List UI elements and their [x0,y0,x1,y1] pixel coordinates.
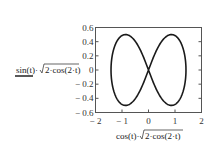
svg-text:0.4: 0.4 [82,37,94,47]
svg-text:− 1: − 1 [116,116,128,126]
lemniscate-curve [111,35,186,106]
y-axis-ticks: 0.60.40.20− 0.2− 0.4− 0.6 [75,23,202,118]
svg-text:2: 2 [199,116,204,126]
svg-text:− 2: − 2 [90,116,102,126]
svg-text:1: 1 [173,116,178,126]
svg-text:0: 0 [89,65,94,75]
svg-text:2·cos(2·t): 2·cos(2·t) [145,131,181,141]
y-axis-label: sin(t)· 2·cos(2·t) [15,64,81,76]
svg-text:− 0.2: − 0.2 [75,79,94,89]
svg-text:0.2: 0.2 [82,51,93,61]
lemniscate-chart: 0.60.40.20− 0.2− 0.4− 0.6 − 2− 1012 sin(… [0,0,214,153]
svg-text:0.6: 0.6 [82,23,94,33]
svg-text:2·cos(2·t): 2·cos(2·t) [45,65,81,75]
svg-text:cos(t)·: cos(t)· [116,131,140,141]
svg-text:0: 0 [146,116,151,126]
x-axis-label: cos(t)· 2·cos(2·t) [116,130,183,141]
x-axis-ticks: − 2− 1012 [90,110,204,126]
svg-text:sin(t)·: sin(t)· [16,65,38,75]
svg-text:− 0.4: − 0.4 [75,93,94,103]
